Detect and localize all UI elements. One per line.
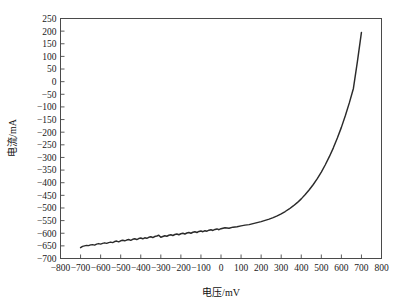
x-tick-label: 400 <box>294 263 309 273</box>
x-tick-label: −300 <box>151 263 171 273</box>
x-tick-label: 200 <box>254 263 269 273</box>
x-tick-label: −500 <box>111 263 131 273</box>
x-tick-label: 0 <box>219 263 224 273</box>
y-tick-label: −550 <box>37 216 57 226</box>
x-tick-label: 600 <box>334 263 349 273</box>
x-tick-label: −800 <box>51 263 71 273</box>
y-tick-label: −250 <box>37 140 57 150</box>
x-tick-label: −700 <box>71 263 91 273</box>
x-tick-label: −600 <box>91 263 111 273</box>
x-tick-label: 500 <box>314 263 329 273</box>
x-tick-label: 300 <box>274 263 289 273</box>
y-axis-title: 电流/mA <box>6 118 18 157</box>
y-tick-label: −450 <box>37 191 57 201</box>
y-tick-label: 250 <box>42 14 57 24</box>
chart-figure: −800−700−600−500−400−300−200−10001002003… <box>0 0 397 308</box>
iv-curve-chart: −800−700−600−500−400−300−200−10001002003… <box>0 0 397 308</box>
x-tick-label: −400 <box>131 263 151 273</box>
x-tick-label: 100 <box>234 263 249 273</box>
x-tick-label: −200 <box>171 263 191 273</box>
y-tick-label: 0 <box>52 77 57 87</box>
y-tick-label: 100 <box>42 52 57 62</box>
y-tick-label: −300 <box>37 153 57 163</box>
y-tick-label: −650 <box>37 241 57 251</box>
x-tick-label: 700 <box>354 263 369 273</box>
x-axis-title: 电压/mV <box>202 286 241 298</box>
y-tick-label: −500 <box>37 203 57 213</box>
y-tick-label: 200 <box>42 27 57 37</box>
y-tick-label: −100 <box>37 102 57 112</box>
y-tick-label: −700 <box>37 254 57 264</box>
y-tick-label: −50 <box>42 90 57 100</box>
x-tick-label: 800 <box>374 263 389 273</box>
y-tick-label: 150 <box>42 39 57 49</box>
y-tick-label: −600 <box>37 229 57 239</box>
y-tick-label: −150 <box>37 115 57 125</box>
y-tick-label: −200 <box>37 128 57 138</box>
y-tick-label: 50 <box>47 64 57 74</box>
x-tick-label: −100 <box>191 263 211 273</box>
y-tick-label: −350 <box>37 165 57 175</box>
y-tick-label: −400 <box>37 178 57 188</box>
